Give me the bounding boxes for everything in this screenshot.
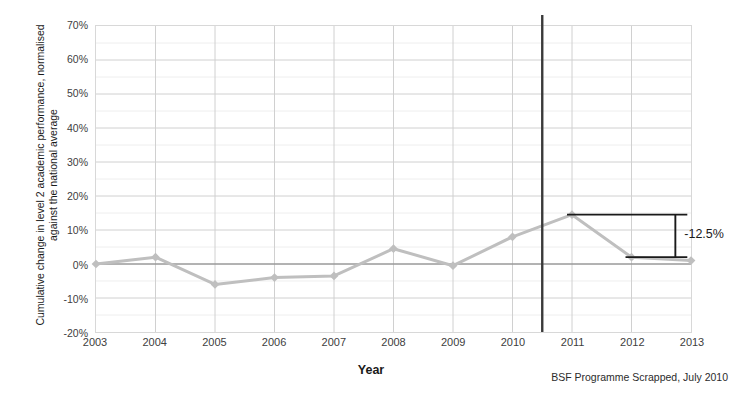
x-axis-tick-labels: 2003200420052006200720082009201020112012… xyxy=(95,336,692,356)
x-tick-label: 2009 xyxy=(441,336,465,348)
y-tick-label: 60% xyxy=(48,53,88,65)
y-tick-label: 50% xyxy=(48,87,88,99)
x-tick-label: 2006 xyxy=(262,336,286,348)
x-tick-label: 2005 xyxy=(202,336,226,348)
annotation-layer xyxy=(96,26,691,332)
x-tick-label: 2010 xyxy=(501,336,525,348)
annotation-delta-label: -12.5% xyxy=(684,227,724,241)
plot-area xyxy=(95,25,692,333)
chart-figure: Cumulative change in level 2 academic pe… xyxy=(0,0,742,414)
x-tick-label: 2004 xyxy=(142,336,166,348)
x-tick-label: 2012 xyxy=(620,336,644,348)
y-tick-label: 20% xyxy=(48,190,88,202)
x-tick-label: 2013 xyxy=(680,336,704,348)
y-tick-label: 30% xyxy=(48,156,88,168)
x-tick-label: 2003 xyxy=(83,336,107,348)
y-tick-label: 40% xyxy=(48,122,88,134)
y-axis-title-container: Cumulative change in level 2 academic pe… xyxy=(0,0,40,345)
y-tick-label: 70% xyxy=(48,19,88,31)
y-tick-label: 10% xyxy=(48,224,88,236)
x-tick-label: 2007 xyxy=(322,336,346,348)
y-tick-label: -10% xyxy=(48,293,88,305)
event-caption: BSF Programme Scrapped, July 2010 xyxy=(551,371,728,383)
y-tick-label: 0% xyxy=(48,259,88,271)
x-tick-label: 2011 xyxy=(561,336,585,348)
x-tick-label: 2008 xyxy=(381,336,405,348)
y-axis-tick-labels: 70%60%50%40%30%20%10%0%-10%-20% xyxy=(46,0,88,414)
